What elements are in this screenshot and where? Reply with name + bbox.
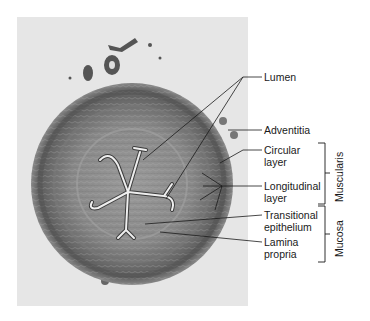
ureter-figure: Lumen Adventitia Circular layer Longitud… xyxy=(0,0,370,321)
label-lamina-propria: Lamina propria xyxy=(264,236,298,260)
label-longitudinal-layer: Longitudinal layer xyxy=(264,180,321,204)
group-label-mucosa: Mucosa xyxy=(333,220,345,257)
label-transitional-epithelium: Transitional epithelium xyxy=(264,209,318,233)
label-adventitia: Adventitia xyxy=(264,124,310,136)
micrograph-drawing xyxy=(0,0,370,321)
label-circular-layer: Circular layer xyxy=(264,144,300,168)
group-label-muscularis: Muscularis xyxy=(333,152,345,202)
label-lumen: Lumen xyxy=(264,71,296,83)
